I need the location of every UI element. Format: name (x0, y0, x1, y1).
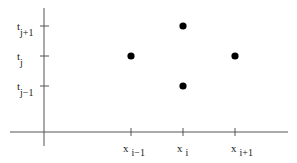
point-i-minus-1-j (127, 52, 134, 59)
x-label-i: xi (177, 142, 189, 158)
point-i-plus-1-j (231, 52, 238, 59)
y-label-j-minus-1: tj−1 (17, 80, 33, 98)
y-label-j-plus-1: tj+1 (17, 20, 33, 38)
x-label-i-plus-1: xi+1 (231, 142, 253, 158)
stencil-diagram: tj+1 tj tj−1 xi−1 xi xi+1 (0, 0, 297, 163)
point-i-j-plus-1 (179, 22, 186, 29)
y-label-j: tj (17, 50, 23, 68)
point-i-j-minus-1 (179, 82, 186, 89)
x-label-i-minus-1: xi−1 (123, 142, 145, 158)
